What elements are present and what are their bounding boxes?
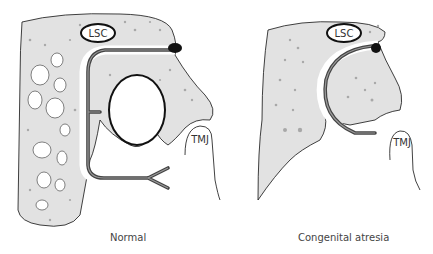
- atresia-panel: LSC TMJ: [258, 22, 420, 200]
- caption-congenital-atresia: Congenital atresia: [298, 232, 389, 243]
- geniculate-ganglion-normal: [168, 43, 182, 53]
- caption-normal: Normal: [110, 232, 146, 243]
- normal-panel: LSC TMJ: [18, 14, 220, 227]
- lsc-label-atresia: LSC: [335, 28, 354, 39]
- lsc-label-normal: LSC: [89, 28, 108, 39]
- geniculate-ganglion-atresia: [371, 43, 381, 53]
- ear-canal-normal: [109, 75, 165, 145]
- tmj-label-atresia: TMJ: [392, 137, 411, 148]
- diagram-canvas: LSC TMJ LSC TMJ: [0, 0, 433, 254]
- tmj-label-normal: TMJ: [190, 134, 209, 145]
